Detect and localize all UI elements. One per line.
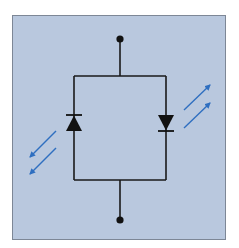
terminal-bottom-icon: [116, 216, 123, 223]
circuit-diagram: [0, 0, 239, 248]
diagram-panel: [13, 16, 226, 240]
terminal-top-icon: [116, 35, 123, 42]
